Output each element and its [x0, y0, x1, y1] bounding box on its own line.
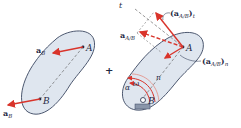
plus-operator: +: [105, 65, 113, 76]
leader-t: [163, 13, 170, 20]
right-panel: t n ω α A B aA/B (aA/B)t (aA/B)n: [119, 1, 229, 110]
relative-acceleration-diagram: A B aB aB + t n ω α A B aA/B: [0, 0, 241, 128]
left-panel: A B aB aB: [3, 31, 95, 119]
rigid-body-left: [22, 31, 95, 114]
label-omega: ω: [133, 79, 139, 88]
label-aB-top: aB: [36, 45, 45, 56]
label-alpha: α: [125, 83, 130, 92]
label-B-left: B: [42, 96, 50, 106]
guide-line-2: [137, 12, 154, 33]
label-A-right: A: [185, 43, 193, 53]
label-A-left: A: [85, 43, 93, 53]
point-B-pin: [141, 98, 146, 103]
label-t: t: [119, 1, 123, 10]
label-aAB-n: (aA/B)n: [202, 56, 229, 67]
label-aAB-t: (aA/B)t: [170, 8, 196, 19]
label-aB-bottom: aB: [3, 108, 12, 119]
label-n: n: [156, 73, 161, 82]
label-aAB: aA/B: [120, 30, 135, 41]
label-B-right: B: [147, 96, 155, 106]
